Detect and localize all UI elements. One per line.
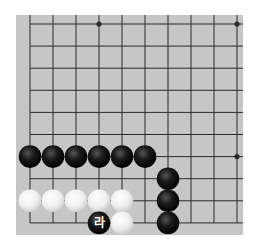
white-stone-circle (42, 190, 65, 213)
black-stone (157, 212, 180, 235)
white-stone (42, 190, 65, 213)
black-stone-circle (157, 190, 180, 213)
white-stone (88, 190, 111, 213)
go-board-diagram: 라 (0, 0, 260, 252)
white-stone (65, 190, 88, 213)
black-stone (88, 145, 111, 168)
white-stone (19, 190, 42, 213)
black-stone-circle (19, 145, 42, 168)
star-point (234, 21, 239, 26)
white-stone (111, 212, 134, 235)
star-point (234, 154, 239, 159)
black-stone-circle (65, 145, 88, 168)
black-stone (42, 145, 65, 168)
white-stone-circle (88, 190, 111, 213)
black-stone (65, 145, 88, 168)
white-stone (111, 190, 134, 213)
white-stone-circle (111, 212, 134, 235)
black-stone-circle (157, 167, 180, 190)
white-stone-circle (65, 190, 88, 213)
black-stone (157, 190, 180, 213)
black-stone (157, 167, 180, 190)
star-point (96, 21, 101, 26)
stone-label: 라 (94, 215, 105, 230)
black-stone (19, 145, 42, 168)
black-stone: 라 (88, 212, 111, 235)
grid-lines (30, 15, 243, 223)
black-stone (134, 145, 157, 168)
black-stone-circle (111, 145, 134, 168)
black-stone-circle (88, 145, 111, 168)
black-stone-circle (42, 145, 65, 168)
black-stone-circle (157, 212, 180, 235)
black-stone-circle (134, 145, 157, 168)
stones: 라 (19, 145, 180, 234)
white-stone-circle (19, 190, 42, 213)
white-stone-circle (111, 190, 134, 213)
black-stone (111, 145, 134, 168)
